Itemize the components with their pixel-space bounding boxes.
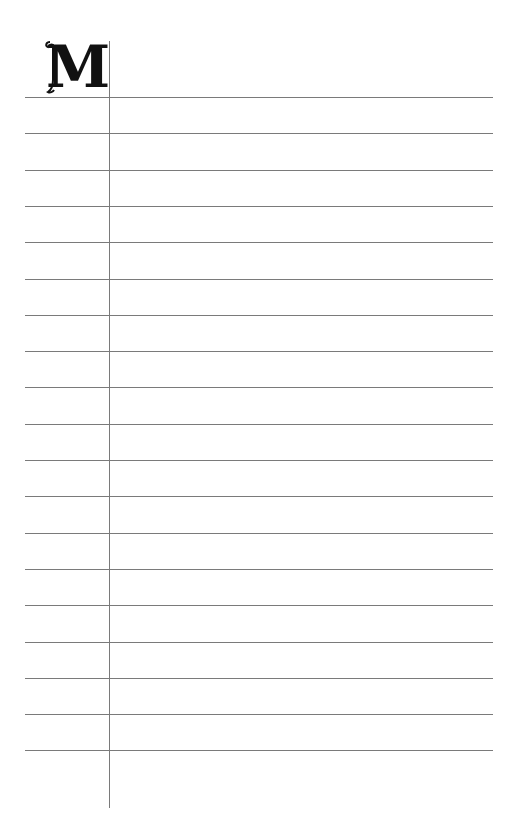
lined-page: M <box>0 0 505 835</box>
ruled-line <box>25 714 493 715</box>
ruled-line <box>25 170 493 171</box>
ruled-line <box>25 569 493 570</box>
ruled-line <box>25 133 493 134</box>
ruled-line <box>25 315 493 316</box>
ruled-line <box>25 206 493 207</box>
ruled-line <box>25 460 493 461</box>
initial-letter: M <box>46 38 86 98</box>
ruled-line <box>25 424 493 425</box>
ruled-line <box>25 351 493 352</box>
ruled-line <box>25 279 493 280</box>
ruled-line <box>25 605 493 606</box>
ruled-line <box>25 750 493 751</box>
ruled-line <box>25 387 493 388</box>
ruled-line <box>25 678 493 679</box>
ruled-line <box>25 242 493 243</box>
ruled-line <box>25 97 493 98</box>
ruled-line <box>25 533 493 534</box>
ruled-line <box>25 496 493 497</box>
ruled-line <box>25 642 493 643</box>
